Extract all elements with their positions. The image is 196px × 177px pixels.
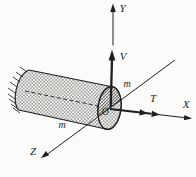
z-axis-label: Z [30, 145, 37, 157]
torque-label: T [150, 92, 157, 104]
mechanics-diagram: Y V T X Z m m O [0, 0, 196, 177]
section-mark-upper: m [123, 78, 130, 89]
x-axis-label: X [182, 98, 191, 110]
section-mark-lower: m [58, 119, 65, 130]
origin-label: O [102, 107, 109, 117]
